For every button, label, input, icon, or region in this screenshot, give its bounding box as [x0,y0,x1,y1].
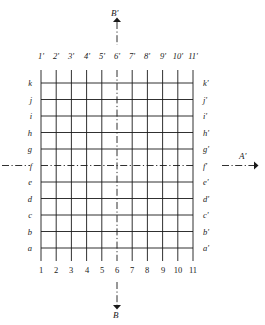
row-left-label-j: j [18,95,32,104]
col-bottom-label-5: 5 [100,266,104,275]
col-bottom-label-11: 11 [189,266,197,275]
col-top-label-8: 8' [144,52,150,61]
col-top-label-4: 4' [84,52,90,61]
grid-diagram: 1' 2' 3' 4' 5' 6' 7' 8' 9' 10' 11' 1 2 3… [0,0,265,325]
col-top-label-10: 10' [173,52,183,61]
section-b-arrowhead-down [113,305,121,310]
col-top-label-2: 2' [53,52,59,61]
row-right-label-j: j' [203,95,207,104]
row-left-label-e: e [18,178,32,187]
col-top-label-3: 3' [68,52,74,61]
col-top-label-9: 9' [160,52,166,61]
section-label-a-prime: A' [239,152,246,161]
row-right-label-b: b' [203,227,209,236]
col-bottom-label-9: 9 [161,266,165,275]
row-right-label-k: k' [203,79,209,88]
row-left-label-a: a [18,244,32,253]
row-left-label-k: k [18,79,32,88]
col-top-label-5: 5' [99,52,105,61]
col-bottom-label-7: 7 [130,266,134,275]
row-right-label-c: c' [203,211,209,220]
col-top-label-6: 6' [114,52,120,61]
col-top-label-1: 1' [38,52,44,61]
row-right-label-g: g' [203,145,209,154]
section-label-b-prime: B' [111,9,118,18]
col-bottom-label-10: 10 [174,266,183,275]
row-left-label-h: h [18,128,32,137]
col-bottom-label-3: 3 [69,266,73,275]
section-b-prime-arrowhead-up [113,18,121,23]
row-left-label-i: i [18,112,32,121]
col-bottom-label-8: 8 [145,266,149,275]
section-label-b: B [113,311,119,320]
row-left-label-c: c [18,211,32,220]
col-bottom-label-1: 1 [39,266,43,275]
row-left-label-g: g [18,145,32,154]
section-a-arrowhead-right [254,162,259,170]
col-bottom-label-2: 2 [54,266,58,275]
row-left-label-b: b [18,227,32,236]
col-bottom-label-6: 6 [115,266,119,275]
diagram-canvas [0,0,265,325]
col-top-label-7: 7' [129,52,135,61]
row-left-label-d: d [18,194,32,203]
row-right-label-i: i' [203,112,207,121]
row-left-label-f: f [18,161,32,170]
row-right-label-d: d' [203,194,209,203]
row-right-label-f: f' [203,161,207,170]
row-right-label-e: e' [203,178,209,187]
row-right-label-h: h' [203,128,209,137]
row-right-label-a: a' [203,244,209,253]
col-top-label-11: 11' [188,52,198,61]
col-bottom-label-4: 4 [85,266,89,275]
